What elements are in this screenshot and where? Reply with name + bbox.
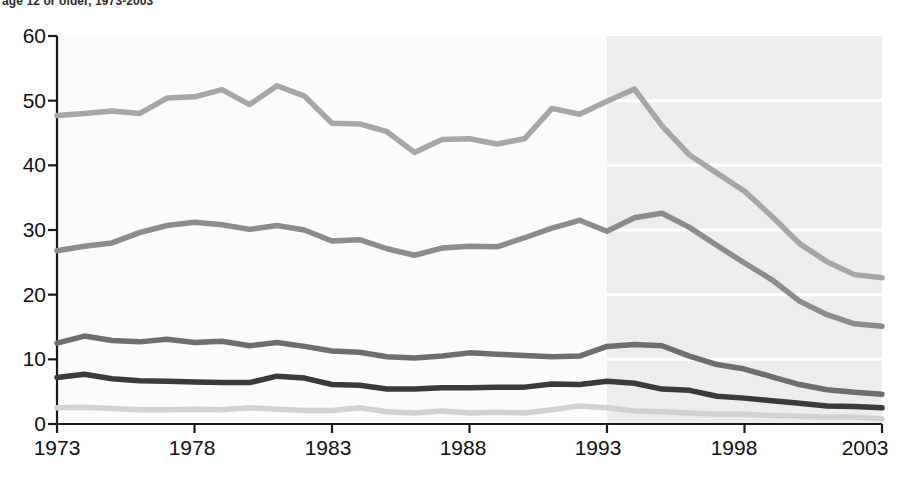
plot-area (0, 0, 907, 478)
violent-crime-trend-chart: age 12 or older, 1973-2003 60 50 40 30 2… (0, 0, 907, 478)
